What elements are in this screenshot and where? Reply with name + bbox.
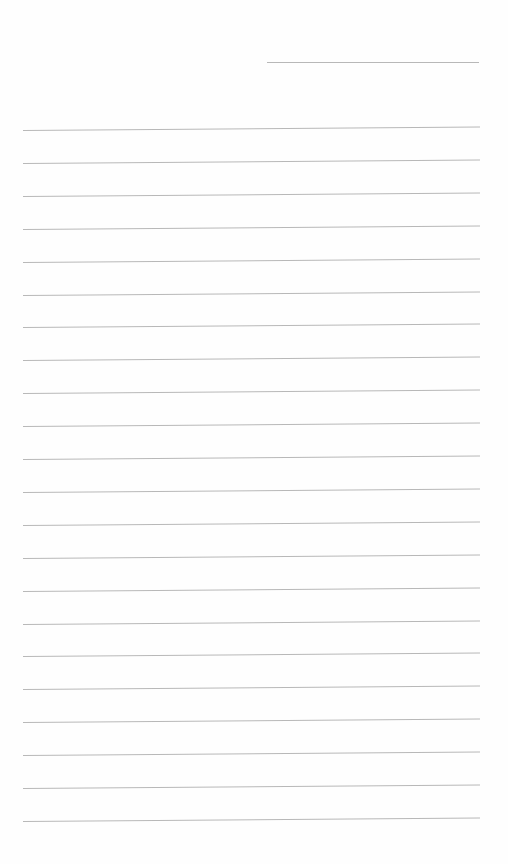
ruled-line xyxy=(23,356,480,361)
ruled-line xyxy=(23,784,480,789)
ruled-line xyxy=(23,323,480,328)
ruled-line xyxy=(23,817,480,822)
ruled-line xyxy=(23,422,480,427)
ruled-line xyxy=(23,159,480,164)
ruled-line xyxy=(23,521,480,526)
ruled-line xyxy=(23,587,480,592)
ruled-line xyxy=(23,488,480,493)
ruled-line xyxy=(23,389,480,394)
ruled-line xyxy=(23,620,480,625)
lined-paper-page xyxy=(0,0,508,864)
ruled-line xyxy=(23,192,480,197)
ruled-line xyxy=(23,685,480,690)
ruled-line xyxy=(23,718,480,723)
ruled-line xyxy=(23,258,480,263)
header-line xyxy=(267,62,479,63)
ruled-line xyxy=(23,554,480,559)
ruled-line xyxy=(23,126,480,131)
ruled-line xyxy=(23,291,480,296)
ruled-line xyxy=(23,455,480,460)
ruled-line xyxy=(23,751,480,756)
ruled-line xyxy=(23,652,480,657)
ruled-line xyxy=(23,225,480,230)
